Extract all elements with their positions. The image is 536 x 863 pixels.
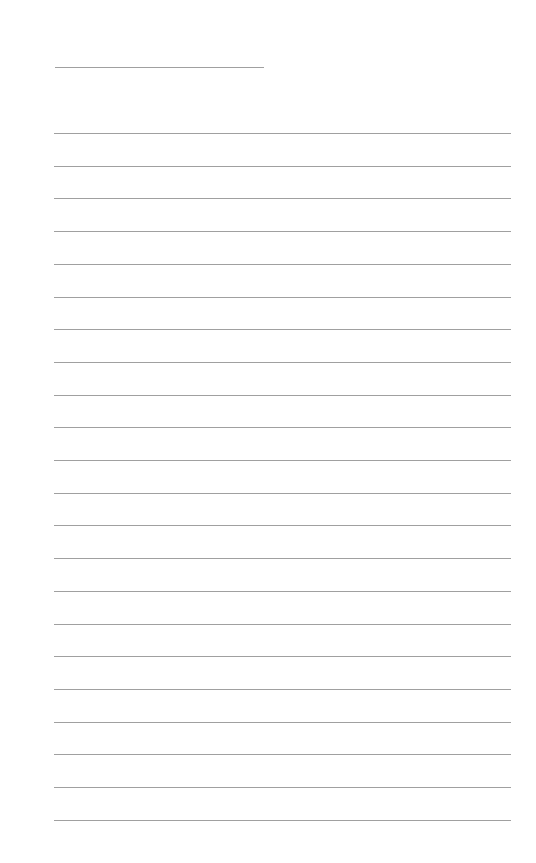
writing-line — [54, 329, 511, 330]
writing-line — [54, 395, 511, 396]
writing-line — [54, 133, 511, 134]
writing-line — [54, 558, 511, 559]
title-writing-line — [55, 67, 264, 68]
writing-line — [54, 493, 511, 494]
writing-line — [54, 264, 511, 265]
writing-line — [54, 460, 511, 461]
writing-line — [54, 624, 511, 625]
writing-line — [54, 656, 511, 657]
writing-line — [54, 787, 511, 788]
writing-line — [54, 754, 511, 755]
writing-line — [54, 820, 511, 821]
writing-line — [54, 427, 511, 428]
writing-line — [54, 198, 511, 199]
writing-line — [54, 297, 511, 298]
lined-paper-page — [0, 0, 536, 863]
writing-line — [54, 722, 511, 723]
writing-line — [54, 591, 511, 592]
writing-line — [54, 231, 511, 232]
writing-line — [54, 166, 511, 167]
writing-line — [54, 525, 511, 526]
writing-line — [54, 689, 511, 690]
writing-line — [54, 362, 511, 363]
